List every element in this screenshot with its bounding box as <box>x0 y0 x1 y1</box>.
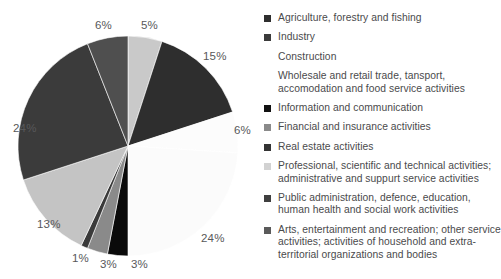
legend-item-label: Arts, entertainment and recreation; othe… <box>278 224 501 261</box>
legend-item[interactable]: Industry <box>264 31 501 43</box>
legend-item[interactable]: Real estate activities <box>264 141 501 153</box>
slice-industry-percent-label: 15% <box>203 50 227 62</box>
legend-item-label: Public administration, defence, educatio… <box>278 192 501 217</box>
legend-item-label: Industry <box>278 31 315 43</box>
slice-construction-percent-label: 6% <box>234 124 251 136</box>
legend-swatch-icon <box>264 124 271 131</box>
legend-swatch-icon <box>264 144 271 151</box>
legend-item[interactable]: Construction <box>264 51 501 63</box>
slice-realestate-percent-label: 1% <box>72 252 89 264</box>
legend-swatch-icon <box>264 34 271 41</box>
legend-item-label: Professional, scientific and technical a… <box>278 160 501 185</box>
slice-public-admin-percent-label: 24% <box>13 122 37 134</box>
slice-information-percent-label: 3% <box>131 258 148 270</box>
slice-arts-percent-label: 6% <box>95 19 112 31</box>
legend-item[interactable]: Professional, scientific and technical a… <box>264 160 501 185</box>
slice-financial-percent-label: 3% <box>100 258 117 270</box>
chart-legend: Agriculture, forestry and fishingIndustr… <box>264 12 501 268</box>
legend-item-label: Financial and insurance activities <box>278 121 431 133</box>
slice-agriculture-percent-label: 5% <box>141 19 158 31</box>
legend-swatch-icon <box>264 54 271 61</box>
legend-item-label: Information and communication <box>278 102 423 114</box>
legend-swatch-icon <box>264 73 271 80</box>
legend-swatch-icon <box>264 15 271 22</box>
legend-item-label: Construction <box>278 51 336 63</box>
legend-swatch-icon <box>264 105 271 112</box>
slice-wholesale-percent-label: 24% <box>201 232 225 244</box>
legend-item[interactable]: Information and communication <box>264 102 501 114</box>
pie-chart-area: 5%15%6%24%3%3%1%13%24%6% <box>0 0 262 279</box>
legend-swatch-icon <box>264 227 271 234</box>
legend-item[interactable]: Wholesale and retail trade, tansport, ac… <box>264 70 501 95</box>
legend-swatch-icon <box>264 195 271 202</box>
slice-professional-percent-label: 13% <box>37 218 61 230</box>
legend-item-label: Real estate activities <box>278 141 374 153</box>
legend-item-label: Wholesale and retail trade, tansport, ac… <box>278 70 501 95</box>
legend-item[interactable]: Arts, entertainment and recreation; othe… <box>264 224 501 261</box>
legend-item-label: Agriculture, forestry and fishing <box>278 12 422 24</box>
legend-swatch-icon <box>264 163 271 170</box>
legend-item[interactable]: Public administration, defence, educatio… <box>264 192 501 217</box>
legend-item[interactable]: Financial and insurance activities <box>264 121 501 133</box>
legend-item[interactable]: Agriculture, forestry and fishing <box>264 12 501 24</box>
